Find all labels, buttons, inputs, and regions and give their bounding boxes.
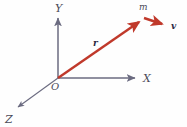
velocity-vector-line (144, 18, 162, 24)
position-vector-label: r (93, 38, 99, 48)
velocity-vector-label: v (171, 21, 177, 31)
position-vector-line (58, 22, 139, 78)
x-axis-label: X (142, 72, 152, 85)
particle-label: m (139, 2, 148, 12)
y-axis-label: Y (55, 2, 64, 15)
vector-diagram-figure: Y X Z O r v m (0, 0, 187, 127)
origin-label: O (51, 81, 59, 92)
diagram-canvas: Y X Z O r v m (0, 0, 187, 127)
z-axis-label: Z (4, 113, 13, 126)
